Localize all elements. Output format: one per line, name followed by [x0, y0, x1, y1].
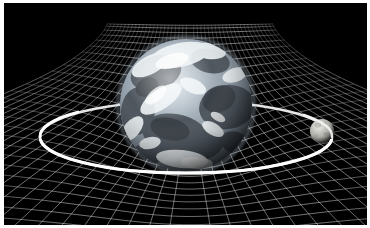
- earth: [114, 33, 258, 177]
- spacetime-illustration-svg: [4, 3, 367, 225]
- scene-canvas: [4, 3, 367, 225]
- spacetime-curvature-figure: Spacetime curvature caused by Earth's ma…: [0, 0, 370, 228]
